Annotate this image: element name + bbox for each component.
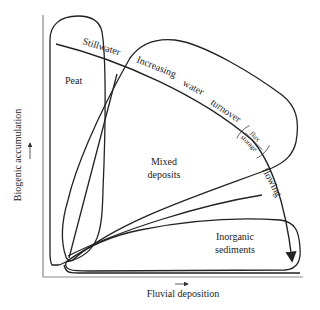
y-axis-label: Biogenic accumulation [12,109,23,201]
label-sediments: sediments [215,244,255,255]
diagram-canvas: Stillwater Increasing water turnover flu… [0,0,320,310]
inorganic-region-outline [66,219,301,271]
label-increasing: Increasing [135,54,178,80]
label-deposits: deposits [148,169,181,180]
x-axis-label: Fluvial deposition [147,288,220,299]
label-inorganic: Inorganic [216,231,255,242]
outer-frame-outline [64,265,300,273]
label-peat: Peat [65,75,82,86]
axes [43,15,303,277]
label-mixed: Mixed [151,156,177,167]
label-flowing: flowing [260,166,284,199]
flux-storage-fraction: flux storage [236,125,271,160]
label-stillwater: Stillwater [81,35,122,57]
peat-diagonal-line [69,74,117,258]
